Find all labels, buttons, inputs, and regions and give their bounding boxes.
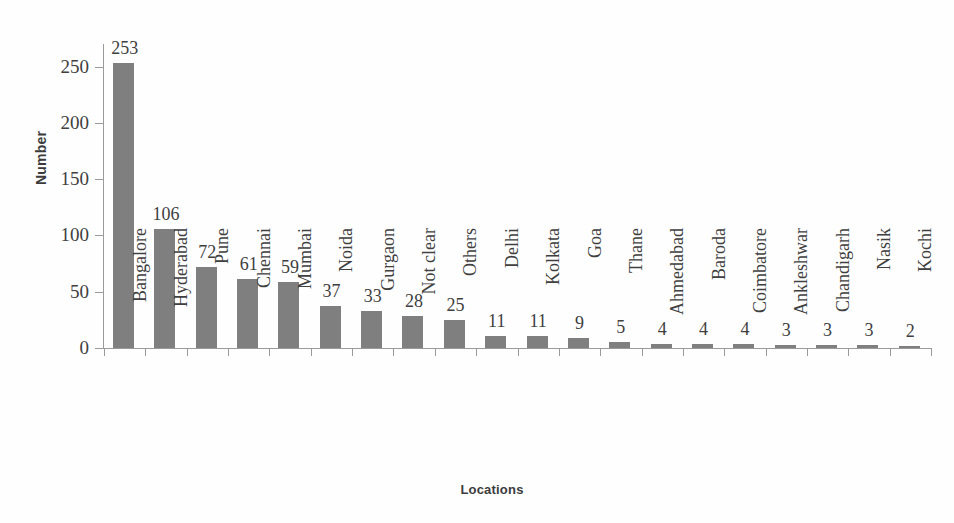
x-category-label: Bangalore — [131, 228, 149, 358]
y-tick-label: 150 — [25, 168, 89, 190]
x-category-label: Gurgaon — [379, 228, 397, 358]
x-category-label: Goa — [586, 228, 604, 358]
x-category-label: Nasik — [875, 228, 893, 358]
y-tick-label: 0 — [25, 337, 89, 359]
y-tick-label: 100 — [25, 224, 89, 246]
x-category-label: Chandigarh — [834, 228, 852, 358]
x-tick-mark — [104, 348, 105, 356]
y-tick-mark — [95, 179, 103, 180]
x-category-label: Thane — [627, 228, 645, 358]
bar-value-label: 106 — [145, 204, 186, 225]
x-category-label: Pune — [213, 228, 231, 358]
bar-value-label: 253 — [104, 38, 145, 59]
y-tick-mark — [95, 123, 103, 124]
bar-chart: Number 050100150200250 25310672615937332… — [0, 0, 954, 523]
y-tick-label: 50 — [25, 281, 89, 303]
x-category-label: Coimbatore — [751, 228, 769, 358]
y-tick-mark — [95, 67, 103, 68]
x-category-label: Kochi — [916, 228, 934, 358]
x-category-label: Kolkata — [544, 228, 562, 358]
x-axis-title: Locations — [0, 482, 954, 497]
y-tick-label: 250 — [25, 56, 89, 78]
x-category-label: Delhi — [503, 228, 521, 358]
x-category-label: Ahmedabad — [668, 228, 686, 358]
x-category-label: Ankleshwar — [792, 228, 810, 358]
x-category-label: Not clear — [420, 228, 438, 358]
x-category-label: Mumbai — [296, 228, 314, 358]
y-tick-mark — [95, 235, 103, 236]
y-tick-mark — [95, 292, 103, 293]
x-category-label: Chennai — [255, 228, 273, 358]
y-tick-label: 200 — [25, 112, 89, 134]
x-category-label: Baroda — [710, 228, 728, 358]
y-tick-mark — [95, 348, 103, 349]
x-category-label: Others — [461, 228, 479, 358]
x-category-label: Noida — [337, 228, 355, 358]
x-category-label: Hyderabad — [172, 228, 190, 358]
